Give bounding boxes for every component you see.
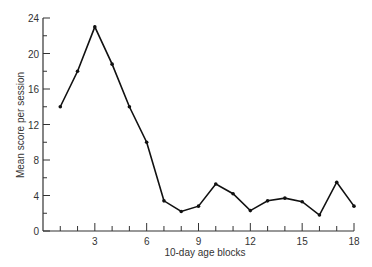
svg-text:8: 8: [33, 155, 39, 166]
svg-text:6: 6: [144, 236, 150, 247]
svg-text:24: 24: [28, 13, 40, 24]
axes: 36912151804812162024: [28, 13, 360, 247]
svg-text:4: 4: [33, 191, 39, 202]
svg-text:0: 0: [33, 226, 39, 237]
data-points: [58, 25, 355, 217]
svg-text:3: 3: [92, 236, 98, 247]
svg-text:20: 20: [28, 49, 40, 60]
svg-text:16: 16: [28, 84, 40, 95]
y-axis-label: Mean score per session: [15, 72, 26, 178]
data-line: [60, 27, 354, 215]
svg-text:9: 9: [196, 236, 202, 247]
svg-text:18: 18: [348, 236, 360, 247]
svg-text:15: 15: [297, 236, 309, 247]
svg-text:12: 12: [245, 236, 257, 247]
x-axis-label: 10-day age blocks: [164, 247, 245, 258]
svg-text:12: 12: [28, 120, 40, 131]
line-chart: 36912151804812162024 10-day age blocks M…: [0, 0, 372, 267]
